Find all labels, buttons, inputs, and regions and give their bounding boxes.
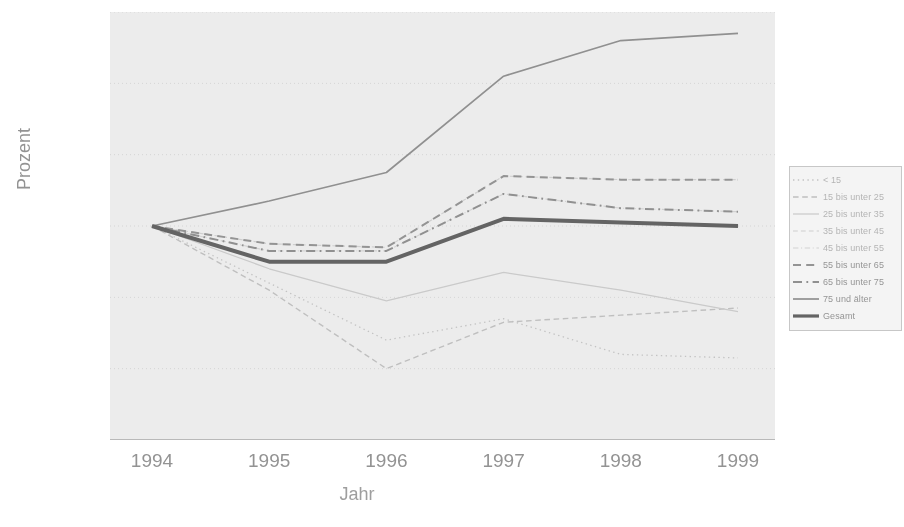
legend-item: 55 bis unter 65	[792, 256, 899, 273]
legend-item-label: 75 und älter	[823, 294, 872, 304]
x-axis: 199419951996199719981999	[0, 0, 904, 527]
legend-swatch-icon	[792, 294, 820, 304]
legend-swatch-icon	[792, 260, 820, 270]
x-axis-tick: 1995	[224, 450, 314, 472]
legend-swatch-icon	[792, 277, 820, 287]
legend-swatch-icon	[792, 209, 820, 219]
legend-item: Gesamt	[792, 307, 899, 324]
legend-swatch-icon	[792, 175, 820, 185]
legend-item-label: Gesamt	[823, 311, 855, 321]
x-axis-tick: 1997	[459, 450, 549, 472]
legend-item-label: 25 bis unter 35	[823, 209, 884, 219]
x-axis-label: Jahr	[0, 484, 904, 505]
legend-item-label: 15 bis unter 25	[823, 192, 884, 202]
x-axis-tick: 1999	[693, 450, 783, 472]
legend-item: 45 bis unter 55	[792, 239, 899, 256]
x-axis-tick: 1994	[107, 450, 197, 472]
legend-item-label: < 15	[823, 175, 841, 185]
legend-item: 15 bis unter 25	[792, 188, 899, 205]
legend-item-label: 55 bis unter 65	[823, 260, 884, 270]
legend-swatch-icon	[792, 311, 820, 321]
legend-item-label: 35 bis unter 45	[823, 226, 884, 236]
x-axis-tick: 1998	[576, 450, 666, 472]
legend-item: 35 bis unter 45	[792, 222, 899, 239]
legend-swatch-icon	[792, 226, 820, 236]
legend-item: < 15	[792, 171, 899, 188]
legend-item: 25 bis unter 35	[792, 205, 899, 222]
x-axis-label-text: Jahr	[339, 484, 374, 504]
chart-scan-container: 160%140%120%100%80%60%40% Prozent 199419…	[0, 0, 904, 527]
legend-item: 75 und älter	[792, 290, 899, 307]
legend-swatch-icon	[792, 243, 820, 253]
legend-item-label: 45 bis unter 55	[823, 243, 884, 253]
legend-item: 65 bis unter 75	[792, 273, 899, 290]
x-axis-tick: 1996	[341, 450, 431, 472]
chart-legend: < 1515 bis unter 2525 bis unter 3535 bis…	[789, 166, 902, 331]
legend-swatch-icon	[792, 192, 820, 202]
legend-item-label: 65 bis unter 75	[823, 277, 884, 287]
